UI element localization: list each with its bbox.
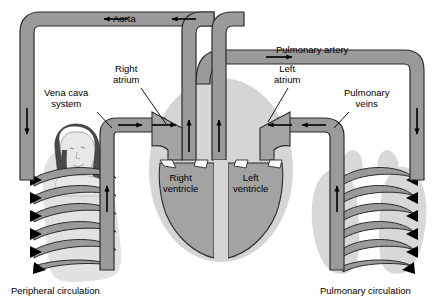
label-vena-cava-system: Vena cava system [44, 87, 88, 109]
label-aorta: Aorta [113, 13, 136, 24]
label-pulmonary-veins: Pulmonary veins [344, 87, 389, 109]
circulatory-system-diagram: Aorta Pulmonary artery Right atrium Left… [0, 0, 443, 305]
diagram-canvas [0, 0, 443, 305]
label-left-atrium: Left atrium [274, 63, 300, 85]
label-pulmonary-circulation: Pulmonary circulation [320, 285, 411, 296]
label-left-ventricle: Left ventricle [233, 172, 268, 194]
label-peripheral-circulation: Peripheral circulation [11, 285, 100, 296]
label-pulmonary-artery: Pulmonary artery [276, 44, 348, 55]
interventricular-septum [214, 160, 228, 260]
label-right-ventricle: Right ventricle [163, 172, 198, 194]
label-right-atrium: Right atrium [113, 63, 139, 85]
